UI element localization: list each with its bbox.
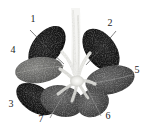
secondary-stem [78, 16, 79, 78]
leaf-label-4: 4 [7, 45, 19, 55]
leaf-label-2: 2 [104, 18, 116, 28]
leaf-label-3: 3 [5, 99, 17, 109]
plant-photograph [0, 0, 151, 134]
leaf-label-5: 5 [131, 65, 143, 75]
leaf-label-1: 1 [27, 14, 39, 24]
rosette-center [70, 76, 84, 87]
botanical-figure: stems [0, 0, 151, 134]
leaf-label-7: 7 [35, 114, 47, 124]
leaf-label-6: 6 [102, 111, 114, 121]
